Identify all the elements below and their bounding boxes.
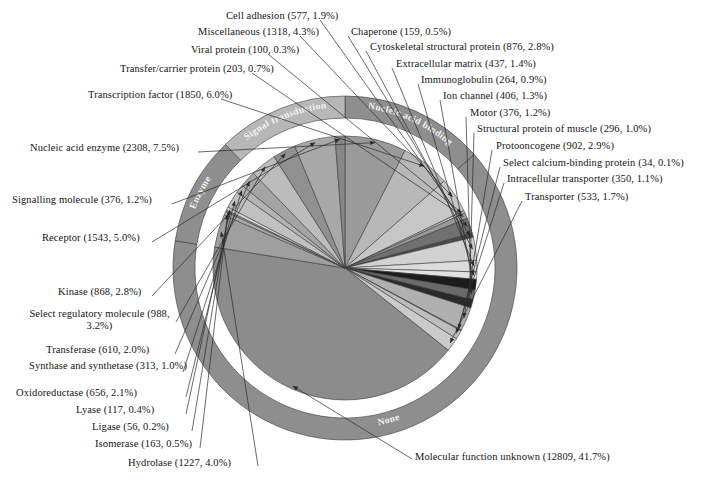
callout-label-select-calcium-binding-protein: Select calcium-binding protein (34, 0.1%… bbox=[503, 157, 684, 169]
callout-label-extracellular-matrix: Extracellular matrix (437, 1.4%) bbox=[396, 58, 536, 70]
callout-label-hydrolase: Hydrolase (1227, 4.0%) bbox=[128, 457, 231, 469]
callout-label-structural-protein-of-muscle: Structural protein of muscle (296, 1.0%) bbox=[477, 123, 651, 135]
callout-label-synthase-and-synthetase: Synthase and synthetase (313, 1.0%) bbox=[28, 360, 188, 372]
callout-label-kinase: Kinase (868, 2.8%) bbox=[58, 286, 141, 298]
callout-label-chaperone: Chaperone (159, 0.5%) bbox=[351, 26, 451, 38]
callout-label-cell-adhesion: Cell adhesion (577, 1.9%) bbox=[226, 10, 338, 22]
callout-label-miscellaneous: Miscellaneous (1318, 4.3%) bbox=[198, 26, 319, 38]
callout-label-transcription-factor: Transcription factor (1850, 6.0%) bbox=[88, 89, 232, 101]
callout-label-oxidoreductase: Oxidoreductase (656, 2.1%) bbox=[16, 387, 137, 399]
callout-label-lyase: Lyase (117, 0.4%) bbox=[76, 404, 154, 416]
callout-label-immunoglobulin: Immunoglobulin (264, 0.9%) bbox=[421, 74, 547, 86]
callout-label-isomerase: Isomerase (163, 0.5%) bbox=[95, 438, 192, 450]
callout-label-cytoskeletal-structural-protein: Cytoskeletal structural protein (876, 2.… bbox=[370, 41, 554, 53]
callout-label-motor: Motor (376, 1.2%) bbox=[470, 107, 550, 119]
callout-label-select-regulatory-molecule: Select regulatory molecule (988, 3.2%) bbox=[22, 308, 177, 332]
callout-label-intracellular-transporter: Intracellular transporter (350, 1.1%) bbox=[507, 173, 663, 185]
callout-label-molecular-function-unknown: Molecular function unknown (12809, 41.7%… bbox=[415, 451, 610, 463]
callout-label-ligase: Ligase (56, 0.2%) bbox=[92, 421, 169, 433]
callout-label-signalling-molecule: Signalling molecule (376, 1.2%) bbox=[12, 194, 152, 206]
callout-label-protooncogene: Protooncogene (902, 2.9%) bbox=[496, 140, 614, 152]
callout-label-transporter: Transporter (533, 1.7%) bbox=[525, 191, 628, 203]
callout-label-nucleic-acid-enzyme: Nucleic acid enzyme (2308, 7.5%) bbox=[30, 142, 179, 154]
callout-label-receptor: Receptor (1543, 5.0%) bbox=[42, 232, 140, 244]
callout-label-viral-protein: Viral protein (100, 0.3%) bbox=[191, 44, 299, 56]
callout-label-transfer-carrier-protein: Transfer/carrier protein (203, 0.7%) bbox=[120, 63, 274, 75]
callout-label-ion-channel: Ion channel (406, 1.3%) bbox=[443, 90, 547, 102]
figure-caption bbox=[0, 470, 704, 480]
callout-label-transferase: Transferase (610, 2.0%) bbox=[46, 344, 149, 356]
inner-pie-group bbox=[213, 136, 477, 400]
figure-canvas: Nucleic acid bindingNoneEnzymeSignal tra… bbox=[0, 0, 704, 480]
